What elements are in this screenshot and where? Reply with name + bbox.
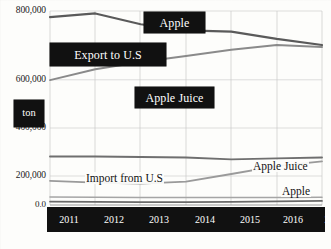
ytick-label-600000: 600,000 [0,74,46,84]
line-chart: 800,000 600,000 400,000 200,000 0.0 Appl… [0,0,331,249]
xtick-label-2016: 2016 [283,214,303,225]
xtick-label-2017: 2017* [325,214,331,225]
xtick-label-2012: 2012 [104,214,124,225]
callout-export-to-us: Export to U.S [50,43,166,66]
callout-unit-ton: ton [14,100,44,127]
xtick-label-2011: 2011 [59,214,79,225]
ytick-label-800000: 800,000 [0,5,46,15]
callout-apple-juice-export: Apple Juice [135,87,214,108]
series-line-other-a [50,197,322,198]
x-axis-strip: 2011 2012 2013 2014 2015 2016 2017* [47,207,325,232]
xtick-label-2014: 2014 [195,214,215,225]
xtick-label-2015: 2015 [240,214,260,225]
ytick-label-0: 0.0 [0,199,46,209]
callout-apple-export: Apple [144,12,205,33]
xtick-label-2013: 2013 [149,214,169,225]
label-apple-import: Apple [281,185,311,197]
label-import-from-us: Import from U.S [85,172,164,184]
ytick-label-200000: 200,000 [0,170,46,180]
label-apple-juice-import: Apple Juice [252,160,309,172]
